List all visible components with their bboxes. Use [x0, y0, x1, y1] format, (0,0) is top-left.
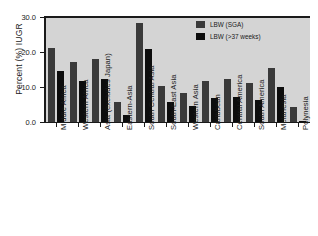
bar-middle-africa-series-0: [48, 48, 55, 122]
legend-label-series-0: LBW (SGA): [210, 21, 243, 28]
x-axis-tick-mark: [78, 123, 79, 127]
chart-legend: LBW (SGA) LBW (>37 weeks): [196, 21, 296, 45]
bar-south-central-asia-series-0: [136, 23, 143, 122]
bar-western-asia-series-0: [180, 93, 187, 122]
x-axis-tick-mark: [276, 123, 277, 127]
x-axis-category-label: South Central Asia: [147, 65, 156, 130]
x-axis-tick-mark: [254, 123, 255, 127]
y-axis-tick-label: 10.0: [8, 83, 36, 92]
bar-asia-excludes-japan-series-0: [92, 59, 99, 122]
x-axis-tick-mark: [188, 123, 189, 127]
x-axis-category-label: Middle Africa: [59, 85, 68, 130]
x-axis-tick-mark: [144, 123, 145, 127]
legend-swatch-icon-series-0: [196, 21, 205, 28]
x-axis-tick-mark: [232, 123, 233, 127]
bar-western-africa-series-0: [70, 62, 77, 122]
bar-caribbean-series-0: [202, 81, 209, 122]
x-axis-category-label: Asia (excludes Japan): [103, 53, 112, 130]
x-axis-category-label: South-East Asia: [169, 74, 178, 130]
legend-item-lbw-37-weeks: LBW (>37 weeks): [196, 33, 296, 40]
bar-south-america-series-0: [246, 83, 253, 122]
x-axis-tick-mark: [210, 123, 211, 127]
x-axis-category-label: Melanesia: [279, 94, 288, 130]
x-axis-category-label: Polynesia: [301, 96, 310, 130]
x-axis-tick-mark: [56, 123, 57, 127]
y-axis-line: [44, 16, 45, 123]
x-axis-category-label: Caribbean: [213, 94, 222, 130]
y-axis-tick-label: 0.0: [8, 118, 36, 127]
x-axis-category-label: South America: [257, 79, 266, 130]
plot-top-border: [44, 16, 310, 17]
bar-central-america-series-0: [224, 79, 231, 122]
bar-chart-figure: Percent (%) IUGR 0.010.020.030.0 Middle …: [0, 0, 318, 236]
y-axis-tick-labels: 0.010.020.030.0: [8, 0, 36, 236]
legend-item-lbw-sga: LBW (SGA): [196, 21, 296, 28]
x-axis-category-label: Central America: [235, 74, 244, 130]
x-axis-category-label: Western Africa: [81, 79, 90, 130]
bar-melanesia-series-0: [268, 68, 275, 122]
x-axis-tick-mark: [100, 123, 101, 127]
x-axis-category-label: Eastern-Asia: [125, 85, 134, 130]
x-axis-tick-mark: [298, 123, 299, 127]
x-axis-tick-mark: [122, 123, 123, 127]
y-axis-tick-label: 30.0: [8, 13, 36, 22]
legend-swatch-icon-series-1: [196, 33, 205, 40]
bar-south-east-asia-series-0: [158, 86, 165, 122]
x-axis-category-label: Western Asia: [191, 84, 200, 130]
bar-polynesia-series-0: [290, 107, 297, 122]
bar-eastern-asia-series-0: [114, 102, 121, 122]
legend-label-series-1: LBW (>37 weeks): [210, 33, 261, 40]
y-axis-tick-label: 20.0: [8, 48, 36, 57]
x-axis-tick-mark: [166, 123, 167, 127]
